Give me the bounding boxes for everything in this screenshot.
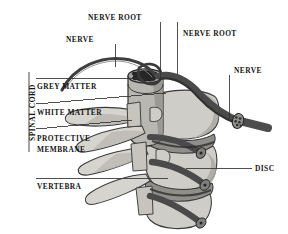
label-nerve-root-right: NERVE ROOT xyxy=(183,29,237,39)
label-spinal-cord: SPINAL CORD xyxy=(28,73,37,153)
spinal-anatomy-figure: NERVE ROOT NERVE NERVE ROOT NERVE SPINAL… xyxy=(0,0,288,234)
label-nerve-root-top: NERVE ROOT xyxy=(88,13,142,23)
lamina-bridge-middle xyxy=(131,142,147,171)
label-grey-matter: GREY MATTER xyxy=(37,82,97,92)
label-nerve-top-left: NERVE xyxy=(66,35,94,45)
lamina-bridge-lower xyxy=(136,186,153,215)
label-protective-membrane: PROTECTIVE MEMBRANE xyxy=(37,133,90,155)
nerve-fascicle-bottom xyxy=(200,222,203,225)
label-protective-membrane-line1: PROTECTIVE xyxy=(37,133,90,144)
label-protective-membrane-line2: MEMBRANE xyxy=(37,144,90,155)
label-disc: DISC xyxy=(255,164,274,174)
nerve-fascicle-lower-middle xyxy=(203,183,206,186)
facet-joint-1 xyxy=(150,107,162,121)
label-nerve-right: NERVE xyxy=(234,66,262,76)
label-vertebra: VERTEBRA xyxy=(37,182,81,192)
lamina-bridge-upper xyxy=(127,102,141,127)
nerve-fascicle-middle xyxy=(199,151,202,154)
label-white-matter: WHITE MATTER xyxy=(37,108,102,118)
